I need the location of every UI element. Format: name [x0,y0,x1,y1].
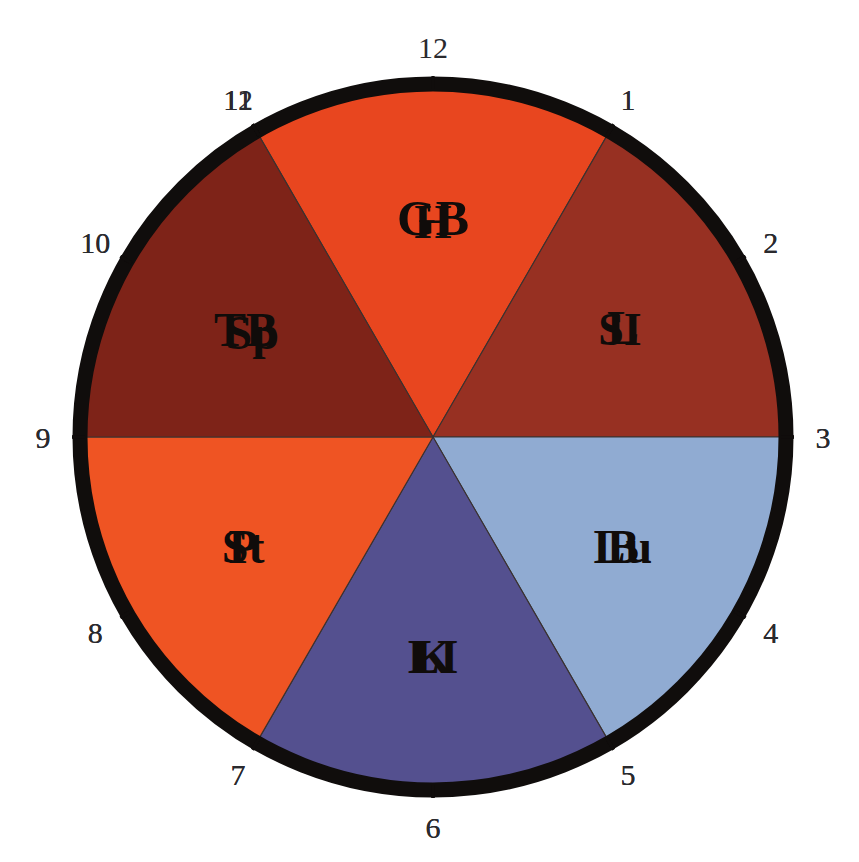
segment-label-b: B [607,520,639,573]
organ-clock-diagram: GBLLuLIStSpHSIBKPTB 12123456789101112123… [0,0,859,862]
hour-number-17: 5 [621,758,636,791]
hour-number-16: 4 [763,616,778,649]
segment-label-si: SI [598,304,641,355]
hour-number-23: 11 [224,83,253,116]
segment-label-k: K [414,630,451,683]
hour-number-20: 8 [88,616,103,649]
hour-number-13: 1 [621,83,636,116]
hour-number-21: 9 [36,421,51,454]
hour-number-18: 6 [426,811,441,844]
segment-label-h: H [414,195,451,248]
segment-label-p: P [228,520,257,573]
hour-number-22: 10 [80,226,110,259]
hour-number-14: 2 [763,226,778,259]
hour-number-19: 7 [231,758,246,791]
organ-clock-svg: GBLLuLIStSpHSIBKPTB 12123456789101112123… [0,0,859,862]
hour-number-15: 3 [816,421,831,454]
hour-number-12: 12 [418,31,448,64]
segment-label-tb: TB [214,303,278,356]
